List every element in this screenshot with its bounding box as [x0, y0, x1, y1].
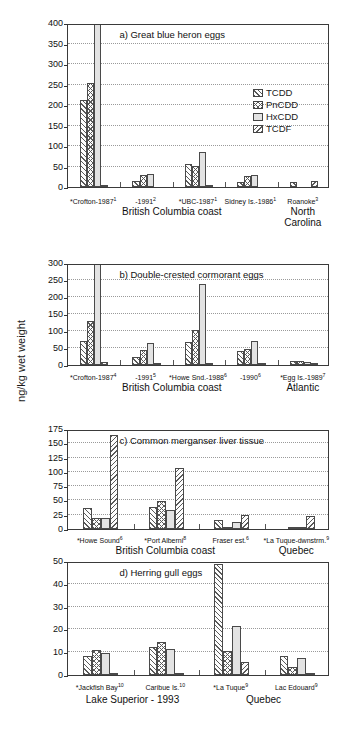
x-axis-group-label: British Columbia coast — [72, 206, 272, 217]
y-axis-tick-mark — [64, 562, 68, 563]
bar-tcdf — [101, 185, 108, 187]
category-separator — [199, 524, 200, 529]
bar-tcdd — [214, 520, 223, 529]
bar-pncdd — [87, 321, 94, 365]
bar-hxcdd — [297, 527, 306, 529]
y-axis-tick-mark — [64, 86, 68, 87]
bar-hxcdd — [94, 264, 101, 365]
y-axis-tick-label: 40 — [27, 579, 63, 589]
bar-hxcdd — [251, 341, 258, 365]
legend-swatch-icon-hxcdd — [253, 113, 263, 121]
y-axis-tick-mark — [64, 516, 68, 517]
y-axis-tick-label: 50 — [27, 495, 63, 505]
y-axis-tick-mark — [64, 501, 68, 502]
y-axis-tick-label: 50 — [27, 162, 63, 172]
gridline — [68, 43, 328, 44]
category-separator — [278, 182, 279, 187]
bar-tcdf — [241, 662, 250, 675]
y-axis-tick-mark — [64, 106, 68, 107]
y-axis-tick-label: 350 — [27, 39, 63, 49]
bar-tcdf — [311, 181, 318, 187]
legend-item-pncdd: PnCDD — [253, 99, 298, 110]
y-axis-tick-mark — [64, 45, 68, 46]
bar-tcdf — [175, 673, 184, 675]
gridline — [68, 499, 328, 500]
y-axis-tick-mark — [64, 630, 68, 631]
y-axis-tick-label: 400 — [27, 18, 63, 28]
y-axis-tick-label: 200 — [27, 100, 63, 110]
bar-hxcdd — [199, 152, 206, 187]
bar-hxcdd — [166, 510, 175, 529]
gridline — [68, 457, 328, 458]
y-axis-tick-mark — [64, 366, 68, 367]
bar-tcdf — [311, 363, 318, 365]
x-axis-group-label: Quebec — [196, 545, 348, 556]
y-axis-tick-mark — [64, 676, 68, 677]
legend-swatch-icon-tcdf — [253, 125, 263, 133]
y-axis-tick-mark — [64, 332, 68, 333]
bar-pncdd — [192, 330, 199, 365]
legend-item-tcdd: TCDD — [253, 87, 298, 98]
bar-pncdd — [140, 350, 147, 365]
bar-hxcdd — [147, 343, 154, 365]
bar-tcdd — [149, 647, 158, 675]
legend-item-tcdf: TCDF — [253, 123, 298, 134]
y-axis-tick-label: 0 — [27, 524, 63, 534]
y-axis-tick-mark — [64, 487, 68, 488]
y-axis-tick-mark — [64, 585, 68, 586]
bar-hxcdd — [297, 658, 306, 675]
bar-pncdd — [92, 518, 101, 529]
y-axis-tick-label: 250 — [27, 80, 63, 90]
bar-tcdf — [154, 363, 161, 365]
panel-title-b: b) Double-crested cormorant eggs — [119, 269, 263, 280]
bar-pncdd — [244, 176, 251, 187]
legend: TCDDPnCDDHxCDDTCDF — [253, 87, 298, 135]
y-axis-tick-mark — [64, 188, 68, 189]
bar-hxcdd — [166, 649, 175, 675]
category-separator — [134, 524, 135, 529]
bar-tcdd — [80, 341, 87, 365]
bar-hxcdd — [251, 175, 258, 187]
bar-tcdf — [175, 468, 184, 529]
bar-pncdd — [297, 361, 304, 365]
category-separator — [225, 182, 226, 187]
bar-tcdf — [110, 673, 119, 675]
y-axis-tick-label: 0 — [27, 360, 63, 370]
y-axis-tick-mark — [64, 24, 68, 25]
gridline — [68, 145, 328, 146]
panel-title-a: a) Great blue heron eggs — [119, 29, 225, 40]
bar-pncdd — [192, 166, 199, 187]
bar-pncdd — [288, 527, 297, 529]
category-separator — [120, 182, 121, 187]
bar-hxcdd — [101, 653, 110, 675]
bar-pncdd — [288, 667, 297, 675]
y-axis-tick-label: 125 — [27, 453, 63, 463]
bar-tcdf — [306, 673, 315, 676]
y-axis-tick-mark — [64, 608, 68, 609]
bar-hxcdd — [199, 284, 206, 365]
y-axis-tick-label: 10 — [27, 647, 63, 657]
bar-tcdf — [110, 435, 119, 529]
y-axis-tick-mark — [64, 315, 68, 316]
category-separator — [173, 182, 174, 187]
gridline — [68, 514, 328, 515]
y-axis-tick-mark — [64, 127, 68, 128]
y-axis-tick-label: 100 — [27, 467, 63, 477]
legend-label: TCDF — [266, 123, 291, 134]
y-axis-tick-mark — [64, 65, 68, 66]
x-axis-tick-label: Lac Edouard9 — [246, 682, 346, 691]
y-axis-tick-label: 100 — [27, 141, 63, 151]
y-axis-tick-label: 150 — [27, 121, 63, 131]
y-axis-tick-label: 300 — [27, 59, 63, 69]
category-separator — [173, 360, 174, 365]
y-axis-tick-label: 75 — [27, 481, 63, 491]
bar-pncdd — [244, 349, 251, 365]
bar-pncdd — [157, 642, 166, 675]
y-axis-tick-label: 100 — [27, 326, 63, 336]
gridline — [68, 296, 328, 297]
figure-multi-panel-bar-chart: ng/kg wet weight a) Great blue heron egg… — [0, 0, 348, 729]
y-axis-tick-label: 25 — [27, 510, 63, 520]
bar-tcdf — [306, 516, 315, 529]
x-axis-group-label: North Carolina — [275, 206, 331, 228]
bar-pncdd — [92, 650, 101, 675]
